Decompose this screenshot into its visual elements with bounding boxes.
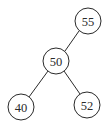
edge-55-50 xyxy=(65,31,79,51)
node-label: 40 xyxy=(15,101,28,115)
tree-node-50: 50 xyxy=(43,48,69,74)
edge-50-40 xyxy=(29,71,48,97)
tree-node-40: 40 xyxy=(8,94,34,120)
tree-diagram: 55 50 40 52 xyxy=(0,0,112,124)
node-label: 50 xyxy=(50,55,63,69)
tree-node-55: 55 xyxy=(75,8,101,34)
node-label: 52 xyxy=(81,99,94,113)
edge-50-52 xyxy=(64,71,80,94)
node-label: 55 xyxy=(82,15,95,29)
tree-node-52: 52 xyxy=(74,92,100,118)
